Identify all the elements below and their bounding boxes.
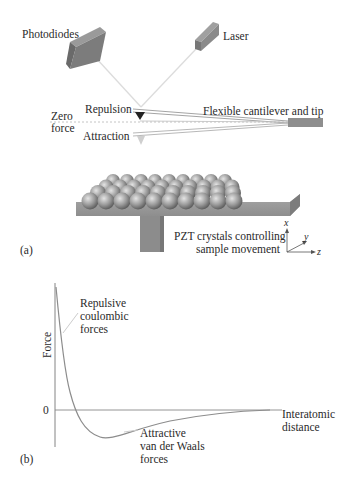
attractive-label-2: van der Waals <box>140 440 205 452</box>
axis-y-label: y <box>303 231 309 242</box>
panel-a: Photodiodes Laser Repulsion Zero force <box>20 22 324 257</box>
photodiodes-label: Photodiodes <box>22 28 79 40</box>
axis-x-label: x <box>283 217 289 228</box>
attraction-label: Attraction <box>83 130 130 142</box>
repulsive-label-1: Repulsive <box>80 297 126 310</box>
attractive-label-1: Attractive <box>140 427 186 439</box>
repulsive-label-2: coulombic <box>80 310 129 322</box>
distance-label-1: Interatomic <box>282 408 335 420</box>
force-axis-label: Force <box>41 332 53 358</box>
panel-b-label: (b) <box>20 453 34 466</box>
pzt-label-2: sample movement <box>196 243 281 256</box>
zero-force-label-2: force <box>51 122 75 134</box>
laser-label: Laser <box>223 30 249 42</box>
repulsion-label: Repulsion <box>85 103 132 116</box>
repulsive-label-3: forces <box>80 323 109 335</box>
cantilever-attraction <box>133 123 288 145</box>
axis-z-label: z <box>316 246 321 257</box>
cantilever-label: Flexible cantilever and tip <box>203 105 324 118</box>
cantilever-holder <box>288 118 323 127</box>
panel-a-label: (a) <box>20 244 33 257</box>
attractive-label-3: forces <box>140 453 169 465</box>
distance-label-2: distance <box>282 421 320 433</box>
laser-beams <box>96 49 196 107</box>
zero-tick-label: 0 <box>43 404 49 416</box>
repulsive-pointer <box>63 313 78 333</box>
coordinate-axes: x y z <box>283 217 321 257</box>
panel-b: 0 Force Repulsive coulombic forces Attra… <box>20 283 335 466</box>
laser-block <box>195 22 219 51</box>
tip-repulsion <box>135 112 145 120</box>
afm-figure: Photodiodes Laser Repulsion Zero force <box>0 0 353 488</box>
pzt-label-1: PZT crystals controlling <box>174 230 286 243</box>
zero-force-label-1: Zero <box>51 110 73 122</box>
tip-attraction <box>137 136 145 145</box>
